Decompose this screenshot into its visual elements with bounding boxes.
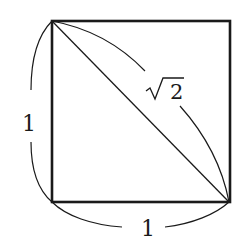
diagonal-radicand: 2	[170, 80, 183, 104]
left-side-label: 1	[22, 111, 36, 136]
diagonal-line	[52, 21, 229, 202]
left-side-arc-lower	[31, 142, 52, 202]
bottom-side-label: 1	[141, 216, 155, 241]
bottom-side-arc-right	[165, 202, 229, 227]
square-diagonal-diagram: 1 1 2	[0, 0, 243, 247]
diagonal-label: 2	[146, 78, 184, 104]
diagonal-arc-lower	[180, 106, 229, 202]
left-side-arc-upper	[31, 21, 52, 90]
bottom-side-arc-left	[52, 202, 122, 227]
diagonal-arc-upper	[52, 21, 145, 71]
